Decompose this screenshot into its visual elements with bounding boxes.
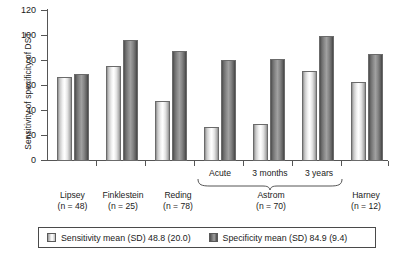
legend-item-specificity: Specificity mean (SD) 84.9 (9.4) [209,233,348,243]
x-group-name-reding: Reding [147,190,209,201]
bar-sensitivity-3-months [253,124,268,162]
legend-item-sensitivity: Sensitivity mean (SD) 48.8 (20.0) [47,233,191,243]
x-group-label-reding: Reding (n = 78) [147,190,209,212]
bar-sensitivity-acute [204,127,219,161]
chart-legend: Sensitivity mean (SD) 48.8 (20.0) Specif… [38,227,376,248]
bar-specificity-3-months [270,59,285,162]
bar-sensitivity-finklestein [106,66,121,161]
bar-specificity-lipsey [74,74,89,162]
bar-specificity-3-years [319,36,334,161]
x-group-name-astrom: Astrom [240,190,302,201]
x-sublabel-acute: Acute [193,168,247,178]
x-tick-separator-3 [194,161,195,166]
bar-specificity-finklestein [123,40,138,161]
x-sublabel-3-years: 3 years [291,168,347,178]
x-group-n-harney: (n = 12) [335,201,395,212]
x-tick-separator-2 [145,161,146,166]
x-group-label-astrom: Astrom (n = 70) [240,190,302,212]
x-group-name-harney: Harney [335,190,395,201]
x-group-n-reding: (n = 78) [147,201,209,212]
bar-sensitivity-reding [155,101,170,161]
x-group-label-harney: Harney (n = 12) [335,190,395,212]
legend-swatch-sensitivity-icon [47,233,56,242]
bar-specificity-reding [172,51,187,161]
bar-sensitivity-3-years [302,71,317,161]
legend-label-sensitivity: Sensitivity mean (SD) 48.8 (20.0) [61,233,191,243]
x-tick-separator-1 [96,161,97,166]
bar-sensitivity-harney [351,82,366,161]
bar-sensitivity-lipsey [57,77,72,161]
x-tick-separator-4 [243,161,244,166]
x-tick-separator-7 [388,161,389,166]
bar-chart-figure: Sensitivity of specificity of DST 0 20 4… [0,0,395,256]
bars-layer [0,0,395,161]
bar-specificity-acute [221,60,236,161]
x-tick-separator-6 [341,161,342,166]
bar-specificity-harney [368,54,383,162]
x-tick-separator-5 [292,161,293,166]
x-group-n-astrom: (n = 70) [240,201,302,212]
legend-swatch-specificity-icon [209,233,218,242]
legend-label-specificity: Specificity mean (SD) 84.9 (9.4) [223,233,348,243]
